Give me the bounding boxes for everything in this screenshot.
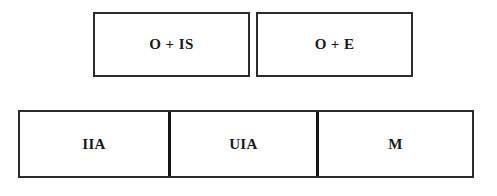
- bottom-bar: IIA UIA M: [18, 110, 474, 178]
- diagram-canvas: O + IS O + E IIA UIA M: [0, 0, 497, 196]
- top-box-o-e-label: O + E: [315, 37, 355, 52]
- bottom-cell-uia-label: UIA: [229, 137, 258, 152]
- bottom-cell-uia: UIA: [171, 112, 319, 176]
- top-box-o-e: O + E: [256, 12, 413, 77]
- top-box-o-is-label: O + IS: [149, 37, 193, 52]
- bottom-cell-m: M: [319, 112, 472, 176]
- bottom-cell-iia: IIA: [20, 112, 171, 176]
- top-box-o-is: O + IS: [93, 12, 250, 77]
- bottom-cell-m-label: M: [388, 137, 403, 152]
- bottom-cell-iia-label: IIA: [82, 137, 106, 152]
